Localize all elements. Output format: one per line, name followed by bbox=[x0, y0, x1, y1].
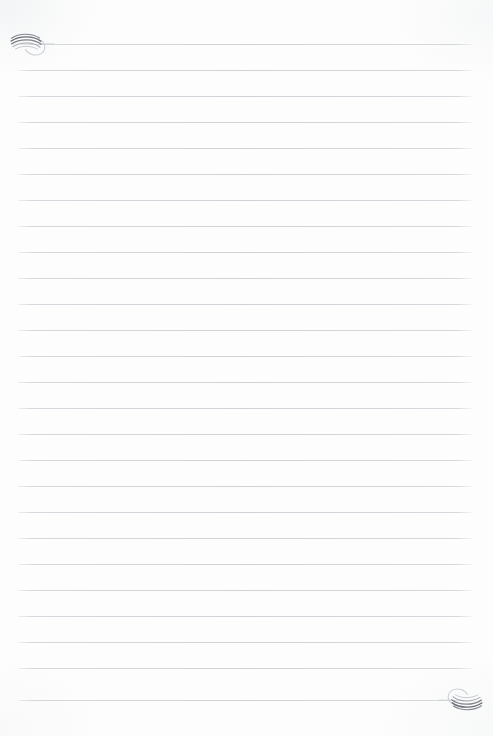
writing-area[interactable] bbox=[18, 30, 472, 710]
notepaper-page bbox=[0, 0, 493, 736]
